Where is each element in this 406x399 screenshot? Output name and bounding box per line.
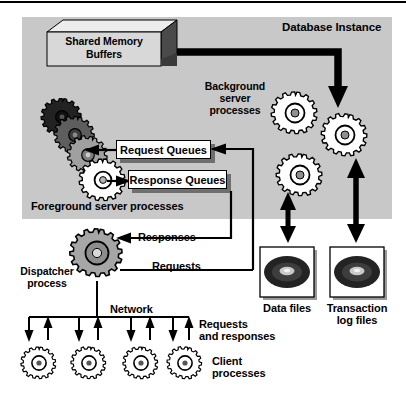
database-instance-title: Database Instance [282,21,381,34]
response-queues-box[interactable]: Response Queues [128,170,227,189]
dispatcher-process-label: Dispatcher process [11,266,83,290]
shared-memory-buffers-label-line2: Buffers [51,49,157,61]
background-server-processes-label: Background server processes [196,81,274,116]
database-instance-diagram: Database Instance Shared Memory Buffers … [0,0,406,399]
client-traffic-arrows [25,316,194,342]
requests-label: Requests [152,260,201,272]
requests-and-responses-label: Requests and responses [199,318,275,343]
client-processes-label: Client processes [212,355,266,380]
shared-memory-buffers-label-line1: Shared Memory [51,36,157,48]
responses-label: Responses [138,231,196,243]
network-label: Network [110,303,153,315]
client-gears [20,343,205,382]
transaction-log-files-icon [330,247,387,300]
transaction-log-files-label: Transaction log files [320,302,394,327]
foreground-server-processes-label: Foreground server processes [31,200,184,212]
request-queues-box[interactable]: Request Queues [116,140,211,159]
data-files-label: Data files [250,302,324,314]
data-files-icon [260,247,317,300]
